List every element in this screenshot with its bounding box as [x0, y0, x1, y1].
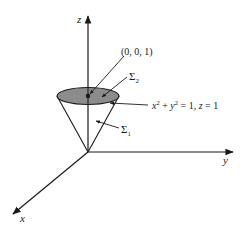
- point-0-0-1: [86, 94, 90, 98]
- sigma2-subscript: 2: [135, 77, 139, 85]
- z-axis-label: z: [76, 13, 82, 25]
- y-axis-label: y: [222, 154, 228, 166]
- boundary-curve-label: x2 + y2 = 1, z = 1: [151, 99, 218, 111]
- x-axis: [13, 152, 88, 214]
- x-axis-label: x: [19, 212, 25, 224]
- sigma1-subscript: 1: [127, 130, 131, 138]
- cone-surface-diagram: z y x (0, 0, 1) Σ2 x2 + y2 = 1, z = 1 Σ1: [0, 0, 245, 232]
- boundary-z-rest: = 1: [203, 100, 219, 111]
- sigma1-leader-line: [96, 121, 119, 128]
- point-leader-line: [90, 56, 124, 94]
- sigma1-label: Σ1: [121, 123, 131, 138]
- point-label: (0, 0, 1): [121, 46, 153, 58]
- boundary-rest: = 1,: [178, 100, 199, 111]
- boundary-plus: +: [160, 100, 171, 111]
- sigma2-label: Σ2: [129, 70, 139, 85]
- boundary-leader-line: [110, 103, 148, 105]
